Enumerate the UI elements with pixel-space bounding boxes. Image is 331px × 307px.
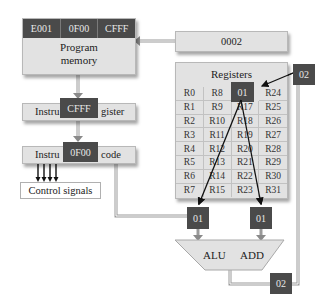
instruction-decode-label-left: Instru <box>35 149 60 160</box>
register-cell: R29 <box>259 156 287 170</box>
register-cell: R21 <box>232 156 260 170</box>
register-cell: R9 <box>204 101 232 115</box>
register-select-value: 02 <box>293 64 315 85</box>
register-cell: R23 <box>232 184 260 198</box>
register-cell: R12 <box>204 142 232 156</box>
alu-result-value: 02 <box>270 273 292 294</box>
memory-cell-2: CFFF <box>98 19 135 38</box>
program-counter-value: 0002 <box>221 36 242 47</box>
highlighted-register-value: 01 <box>231 82 254 102</box>
register-cell: R8 <box>204 87 232 101</box>
program-memory-label-2: memory <box>23 54 135 67</box>
register-cell: R6 <box>176 170 204 184</box>
instruction-register-label-right: gister <box>101 106 124 117</box>
register-cell: R24 <box>259 87 287 101</box>
memory-cell-0: E001 <box>23 19 61 38</box>
operand-b-value: 01 <box>250 207 272 229</box>
register-grid: R0 R8 01 R24 R1 R9 R17 R25 R2 R10 R18 R2… <box>176 87 287 197</box>
alu-operation: ADD <box>240 249 264 261</box>
memory-cell-1: 0F00 <box>61 19 99 38</box>
register-cell: R4 <box>176 142 204 156</box>
control-signals: Control signals <box>20 182 101 199</box>
register-cell: R13 <box>204 156 232 170</box>
operand-a-value: 01 <box>187 207 209 229</box>
register-cell: R15 <box>204 184 232 198</box>
register-cell: R31 <box>259 184 287 198</box>
instruction-register-value: CFFF <box>60 98 98 118</box>
program-memory-label-1: Program <box>23 41 135 54</box>
register-cell: R25 <box>259 101 287 115</box>
registers-title: Registers <box>176 68 287 80</box>
register-cell: R10 <box>204 115 232 129</box>
register-cell: R28 <box>259 142 287 156</box>
register-cell: R0 <box>176 87 204 101</box>
register-cell: R27 <box>259 128 287 142</box>
alu-label: ALU <box>203 249 226 261</box>
register-cell: R14 <box>204 170 232 184</box>
instruction-decode-value: 0F00 <box>63 142 98 162</box>
alu-shape <box>175 240 284 270</box>
register-cell: R3 <box>176 128 204 142</box>
register-cell: R18 <box>232 115 260 129</box>
register-cell: R22 <box>232 170 260 184</box>
register-cell: R19 <box>232 128 260 142</box>
register-cell: R30 <box>259 170 287 184</box>
instruction-decode-label-right: code <box>101 149 121 160</box>
program-counter: 0002 <box>175 31 288 52</box>
register-cell: R17 <box>232 101 260 115</box>
register-cell: R11 <box>204 128 232 142</box>
register-cell: R20 <box>232 142 260 156</box>
control-signals-label: Control signals <box>29 185 93 196</box>
register-cell: R7 <box>176 184 204 198</box>
register-cell: R26 <box>259 115 287 129</box>
program-memory: E001 0F00 CFFF Program memory <box>22 18 136 75</box>
register-cell: R2 <box>176 115 204 129</box>
instruction-register-label-left: Instru <box>35 106 60 117</box>
register-cell: R1 <box>176 101 204 115</box>
register-cell: R5 <box>176 156 204 170</box>
program-memory-cells: E001 0F00 CFFF <box>23 19 135 38</box>
